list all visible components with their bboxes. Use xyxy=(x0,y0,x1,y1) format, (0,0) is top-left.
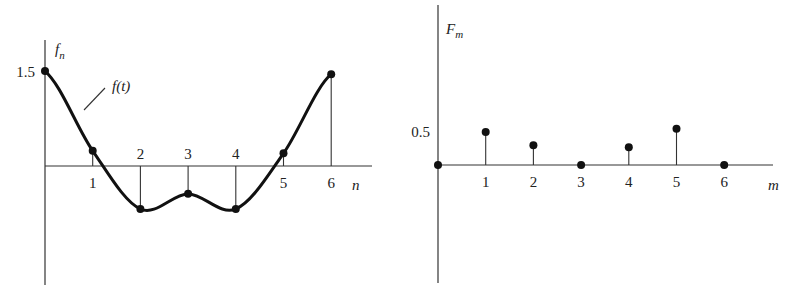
curve-label-leader xyxy=(84,88,105,110)
right-x-tick-label: 3 xyxy=(577,174,585,190)
right-x-tick-label: 4 xyxy=(625,174,633,190)
left-x-axis-label: n xyxy=(352,177,360,193)
left-x-tick-label: 2 xyxy=(137,146,145,162)
left-x-tick-label: 3 xyxy=(184,146,192,162)
left-sample-point-n1 xyxy=(89,147,97,155)
right-stem-point-m0 xyxy=(434,161,442,169)
right-y-axis-label: Fm xyxy=(445,21,463,40)
figure: 123456 1.5 fn n f(t) 123456 0.5 Fm m xyxy=(0,0,796,292)
left-sample-point-n2 xyxy=(136,205,144,213)
left-x-tick-label: 6 xyxy=(327,175,335,191)
right-x-axis-label: m xyxy=(768,177,779,193)
left-x-tick-label: 1 xyxy=(89,175,97,191)
left-y-axis-label: fn xyxy=(55,41,65,61)
right-stem-point-m1 xyxy=(482,128,490,136)
right-y-tick-label: 0.5 xyxy=(411,124,430,140)
curve-label: f(t) xyxy=(112,78,130,95)
right-y-axis-label-subscript: m xyxy=(455,28,463,40)
left-sample-point-n5 xyxy=(280,149,288,157)
right-stem-point-m6 xyxy=(720,161,728,169)
left-sample-point-n0 xyxy=(41,67,49,75)
right-stem-point-m4 xyxy=(625,143,633,151)
left-y-tick-label: 1.5 xyxy=(16,64,35,80)
left-sample-point-n6 xyxy=(327,70,335,78)
left-chart: 123456 1.5 fn n f(t) xyxy=(16,40,372,285)
right-stem-point-m3 xyxy=(577,161,585,169)
right-x-tick-label: 5 xyxy=(673,174,681,190)
left-sample-point-n3 xyxy=(184,190,192,198)
right-x-tick-label: 1 xyxy=(482,174,490,190)
left-x-tick-label: 5 xyxy=(280,175,288,191)
right-x-tick-label: 6 xyxy=(720,174,728,190)
left-sample-point-n4 xyxy=(232,205,240,213)
left-x-tick-label: 4 xyxy=(232,146,240,162)
right-stem-point-m5 xyxy=(673,125,681,133)
right-x-tick-label: 2 xyxy=(530,174,538,190)
right-stem-point-m2 xyxy=(529,141,537,149)
right-chart: 123456 0.5 Fm m xyxy=(411,5,779,283)
left-y-axis-label-subscript: n xyxy=(59,49,65,61)
